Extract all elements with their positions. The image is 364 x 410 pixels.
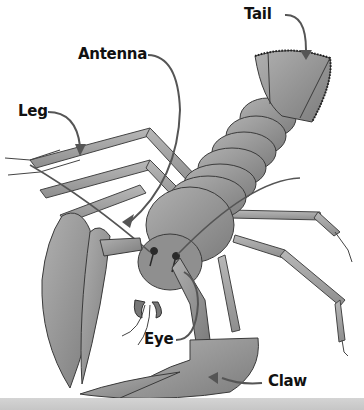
crayfish-diagram: Tail Antenna Leg Eye Claw <box>0 0 364 410</box>
label-leg: Leg <box>18 104 48 119</box>
legs-right <box>218 210 345 342</box>
leader-tail <box>285 15 306 50</box>
label-tail: Tail <box>244 7 272 22</box>
claw-left <box>42 213 142 388</box>
label-eye: Eye <box>144 332 173 347</box>
label-claw: Claw <box>268 374 307 389</box>
leader-leg <box>48 112 80 146</box>
bottom-strip <box>0 398 364 410</box>
crayfish-illustration <box>0 0 364 410</box>
label-antenna: Antenna <box>78 47 147 62</box>
mouthparts <box>134 300 161 318</box>
